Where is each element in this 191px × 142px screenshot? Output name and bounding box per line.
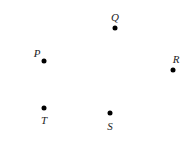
point-t-label: T (41, 115, 47, 126)
point-q-dot (113, 26, 118, 31)
point-s-dot (108, 111, 113, 116)
point-s-label: S (107, 121, 113, 132)
diagram-canvas: Q P R T S (0, 0, 191, 142)
point-r-label: R (173, 54, 180, 65)
point-p-label: P (34, 48, 41, 59)
point-t-dot (42, 106, 47, 111)
point-q-label: Q (111, 12, 119, 23)
point-p-dot (42, 59, 47, 64)
point-r-dot (171, 68, 176, 73)
